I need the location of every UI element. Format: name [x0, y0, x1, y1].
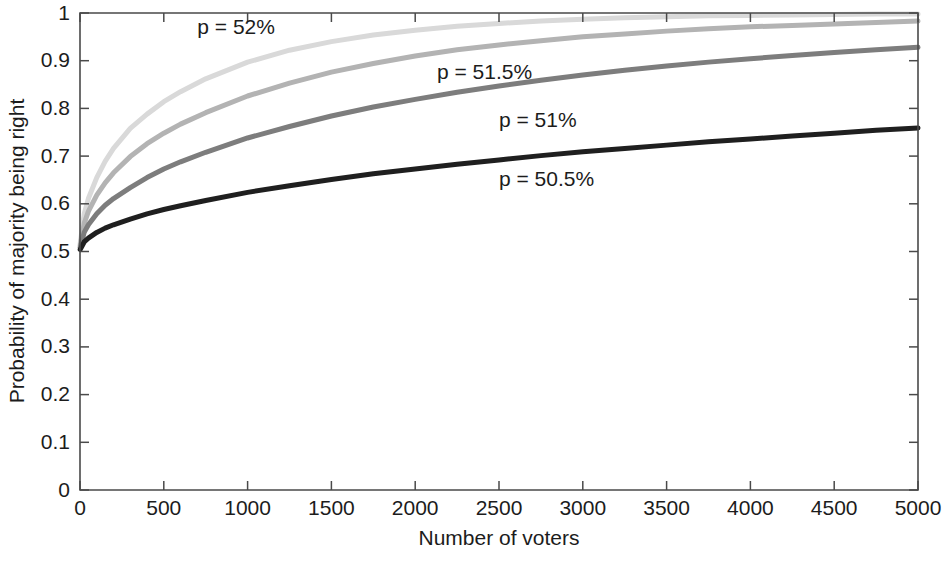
x-tick-label: 1500: [308, 496, 355, 519]
series-label-1: p = 51.5%: [437, 60, 532, 83]
y-axis-title: Probability of majority being right: [5, 99, 28, 404]
y-tick-label: 0.8: [41, 96, 70, 119]
y-tick-label: 0.5: [41, 239, 70, 262]
x-tick-label: 4000: [727, 496, 774, 519]
x-tick-label: 1000: [224, 496, 271, 519]
y-tick-label: 0.4: [41, 287, 71, 310]
y-tick-label: 0: [58, 478, 70, 501]
y-tick-label: 0.1: [41, 430, 70, 453]
y-tick-label: 0.3: [41, 334, 70, 357]
y-tick-label: 0.9: [41, 48, 70, 71]
series-label-0: p = 52%: [197, 15, 275, 38]
probability-of-majority-line-chart: 00.10.20.30.40.50.60.70.80.91 0500100015…: [0, 0, 943, 563]
x-tick-label: 2500: [476, 496, 523, 519]
x-tick-label: 2000: [392, 496, 439, 519]
y-tick-label: 0.2: [41, 382, 70, 405]
chart-background: [0, 0, 943, 563]
x-tick-label: 3500: [643, 496, 690, 519]
y-tick-label: 1: [58, 1, 70, 24]
series-label-2: p = 51%: [499, 108, 577, 131]
y-tick-label: 0.6: [41, 191, 70, 214]
x-tick-label: 5000: [895, 496, 942, 519]
x-tick-label: 0: [74, 496, 86, 519]
chart-figure: 00.10.20.30.40.50.60.70.80.91 0500100015…: [0, 0, 943, 563]
y-tick-label: 0.7: [41, 144, 70, 167]
series-label-3: p = 50.5%: [499, 167, 594, 190]
x-tick-label: 4500: [811, 496, 858, 519]
x-tick-label: 500: [146, 496, 181, 519]
x-tick-label: 3000: [559, 496, 606, 519]
x-axis-title: Number of voters: [418, 526, 579, 549]
